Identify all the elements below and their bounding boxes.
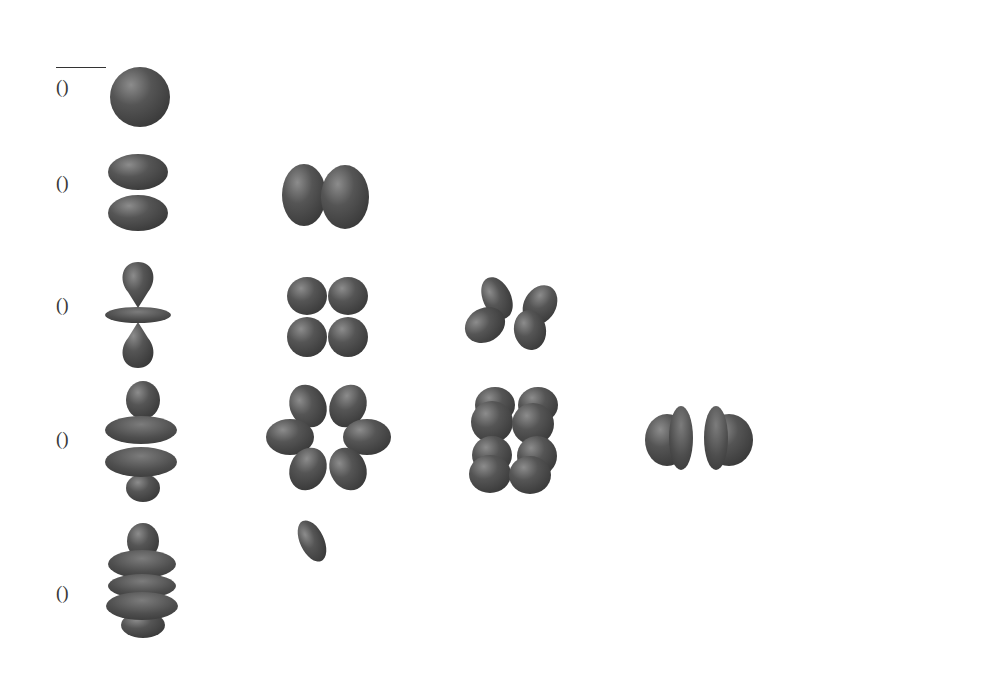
orbital-3d-m1-icon [287, 277, 368, 357]
orbital-4f-m0-icon [105, 381, 177, 502]
orbital-2p-m1-icon [282, 164, 369, 229]
row-label-3d: () [56, 294, 69, 316]
orbital-2p-m0-icon [108, 154, 168, 231]
orbital-5g-m0-icon [106, 523, 178, 638]
header-n-l [56, 44, 106, 68]
orbital-5g-m1-icon [292, 516, 332, 566]
row-label-2p: () [56, 172, 69, 194]
orbital-3d-m0-icon [105, 262, 171, 368]
row-label-4f: () [56, 428, 69, 450]
orbital-4f-m1-icon [266, 378, 391, 496]
row-label-5g: () [56, 582, 69, 604]
orbital-4f-m2-icon [469, 387, 558, 494]
orbital-3d-m2-icon [458, 272, 564, 352]
orbital-4f-m3-icon [645, 406, 753, 470]
orbital-1s-icon [110, 67, 170, 127]
row-label-1s: () [56, 76, 69, 98]
orbital-diagram [0, 0, 988, 699]
